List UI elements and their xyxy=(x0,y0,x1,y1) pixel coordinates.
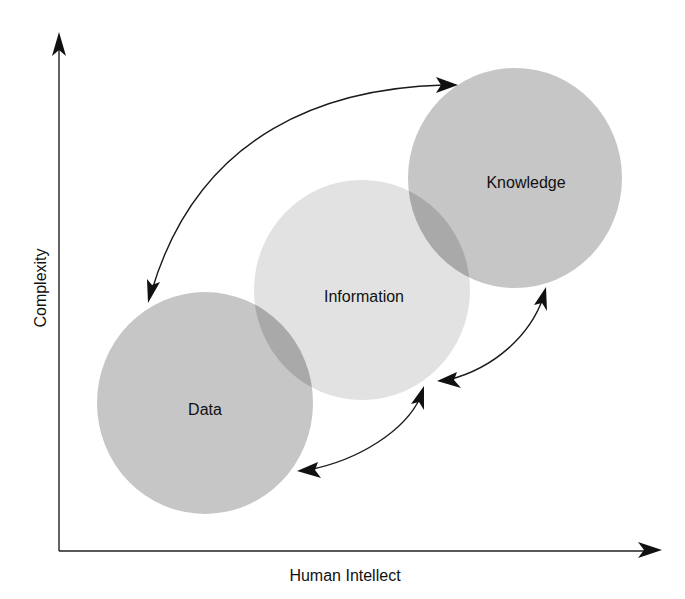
arrowhead-to-information-right-icon xyxy=(437,372,461,388)
y-axis-label: Complexity xyxy=(32,248,49,327)
data-label: Data xyxy=(188,401,222,418)
arrowhead-to-data-icon xyxy=(147,279,160,303)
data-information-knowledge-diagram: Data Information Knowledge Human Intelle… xyxy=(0,0,685,599)
knowledge-label: Knowledge xyxy=(486,174,565,191)
information-label: Information xyxy=(324,288,404,305)
y-axis xyxy=(52,32,66,551)
x-axis-arrowhead-icon xyxy=(638,542,662,558)
x-axis xyxy=(59,542,662,558)
arrowhead-to-information-icon xyxy=(411,386,424,410)
arrowhead-to-knowledge-bottom-icon xyxy=(534,287,547,311)
arrowhead-to-data-small-icon xyxy=(297,462,321,478)
x-axis-label: Human Intellect xyxy=(289,567,401,584)
